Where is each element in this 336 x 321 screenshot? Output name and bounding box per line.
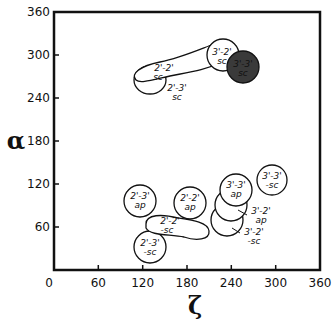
x-tick-label: 300 xyxy=(264,276,287,290)
y-tick-label: 120 xyxy=(27,177,50,191)
label-3-3-ap-b: ap xyxy=(230,189,242,199)
conformation-map: 0 60 120 180 240 300 360 60 120 180 240 … xyxy=(0,0,336,321)
x-tick-label: 240 xyxy=(220,276,243,290)
x-tick-label: 360 xyxy=(309,276,332,290)
x-tick-label: 120 xyxy=(131,276,154,290)
y-tick-label: 240 xyxy=(27,91,50,105)
y-tick-label: 180 xyxy=(27,134,50,148)
y-axis-title: α xyxy=(7,126,25,155)
label-2-2-sc-neg-b: -sc xyxy=(161,225,174,235)
label-2-3-ap-b: ap xyxy=(134,200,146,210)
y-tick-label: 60 xyxy=(35,220,50,234)
x-tick-label: 60 xyxy=(91,276,106,290)
label-3-2-sc-b: sc xyxy=(217,56,227,66)
label-2-3-sc-b: sc xyxy=(172,92,182,102)
y-tick-label: 360 xyxy=(27,5,50,19)
label-3-2-sc-neg-b: -sc xyxy=(248,236,261,246)
x-axis-title: ζ xyxy=(188,291,202,320)
label-3-2-ap-b: ap xyxy=(255,215,267,225)
label-2-3-sc-neg-b: -sc xyxy=(144,247,157,257)
x-axis-tick-labels: 0 60 120 180 240 300 360 xyxy=(45,276,331,290)
y-axis-tick-labels: 60 120 180 240 300 360 xyxy=(27,5,50,234)
x-tick-label: 180 xyxy=(176,276,199,290)
label-2-2-ap-b: ap xyxy=(184,202,196,212)
label-2-2-sc-b: sc xyxy=(153,72,163,82)
label-3-3-sc-neg-b: -sc xyxy=(266,180,279,190)
x-tick-label: 0 xyxy=(45,276,53,290)
y-tick-label: 300 xyxy=(27,48,50,62)
label-3-3-sc-b: sc xyxy=(238,68,248,78)
